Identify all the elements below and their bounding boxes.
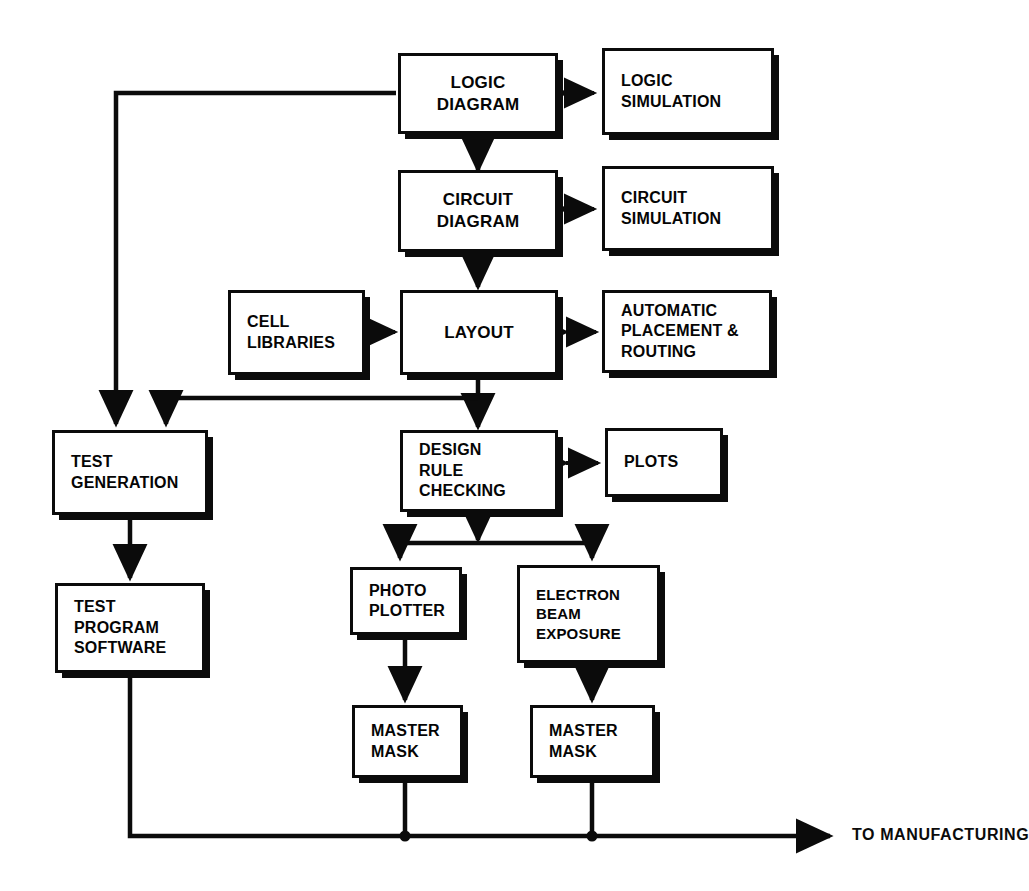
node-plots[interactable]: PLOTS xyxy=(605,428,723,497)
node-test-generation[interactable]: TESTGENERATION xyxy=(52,430,208,515)
bus-junction-left xyxy=(400,831,411,842)
node-logic-diagram[interactable]: LOGICDIAGRAM xyxy=(398,53,558,134)
node-circuit-diagram-label: CIRCUITDIAGRAM xyxy=(401,189,555,233)
node-design-rule-checking[interactable]: DESIGNRULECHECKING xyxy=(400,430,558,512)
node-photo-plotter-label: PHOTOPLOTTER xyxy=(353,581,459,622)
node-layout-label: LAYOUT xyxy=(403,322,555,344)
to-manufacturing-label: TO MANUFACTURING xyxy=(852,826,1029,844)
node-automatic-placement-routing[interactable]: AUTOMATICPLACEMENT &ROUTING xyxy=(602,290,772,373)
node-circuit-diagram[interactable]: CIRCUITDIAGRAM xyxy=(398,170,558,252)
node-master-mask-left[interactable]: MASTERMASK xyxy=(352,705,463,778)
node-photo-plotter[interactable]: PHOTOPLOTTER xyxy=(350,567,462,635)
edge-split-bar-left xyxy=(400,543,478,558)
bus-junction-right xyxy=(587,831,598,842)
node-test-program-software[interactable]: TESTPROGRAMSOFTWARE xyxy=(55,583,205,673)
node-electron-beam-exposure-label: ELECTRONBEAMEXPOSURE xyxy=(520,585,657,643)
edge-testprogramsoftware-bus xyxy=(130,673,830,836)
node-plots-label: PLOTS xyxy=(608,452,720,472)
node-electron-beam-exposure[interactable]: ELECTRONBEAMEXPOSURE xyxy=(517,565,660,663)
node-test-generation-label: TESTGENERATION xyxy=(55,452,205,493)
node-automatic-placement-routing-label: AUTOMATICPLACEMENT &ROUTING xyxy=(605,301,769,362)
node-circuit-simulation-label: CIRCUITSIMULATION xyxy=(605,188,771,229)
node-layout[interactable]: LAYOUT xyxy=(400,290,558,375)
edge-layout-testgeneration xyxy=(166,398,478,424)
node-design-rule-checking-label: DESIGNRULECHECKING xyxy=(403,440,555,501)
node-logic-simulation[interactable]: LOGICSIMULATION xyxy=(602,48,774,135)
node-master-mask-right-label: MASTERMASK xyxy=(533,721,652,762)
node-logic-diagram-label: LOGICDIAGRAM xyxy=(401,72,555,116)
node-test-program-software-label: TESTPROGRAMSOFTWARE xyxy=(58,597,202,658)
node-master-mask-left-label: MASTERMASK xyxy=(355,721,460,762)
node-cell-libraries[interactable]: CELLLIBRARIES xyxy=(228,290,365,375)
node-master-mask-right[interactable]: MASTERMASK xyxy=(530,705,655,778)
edge-split-bar-right xyxy=(478,543,592,558)
node-logic-simulation-label: LOGICSIMULATION xyxy=(605,71,771,112)
node-cell-libraries-label: CELLLIBRARIES xyxy=(231,312,362,353)
node-circuit-simulation[interactable]: CIRCUITSIMULATION xyxy=(602,166,774,251)
